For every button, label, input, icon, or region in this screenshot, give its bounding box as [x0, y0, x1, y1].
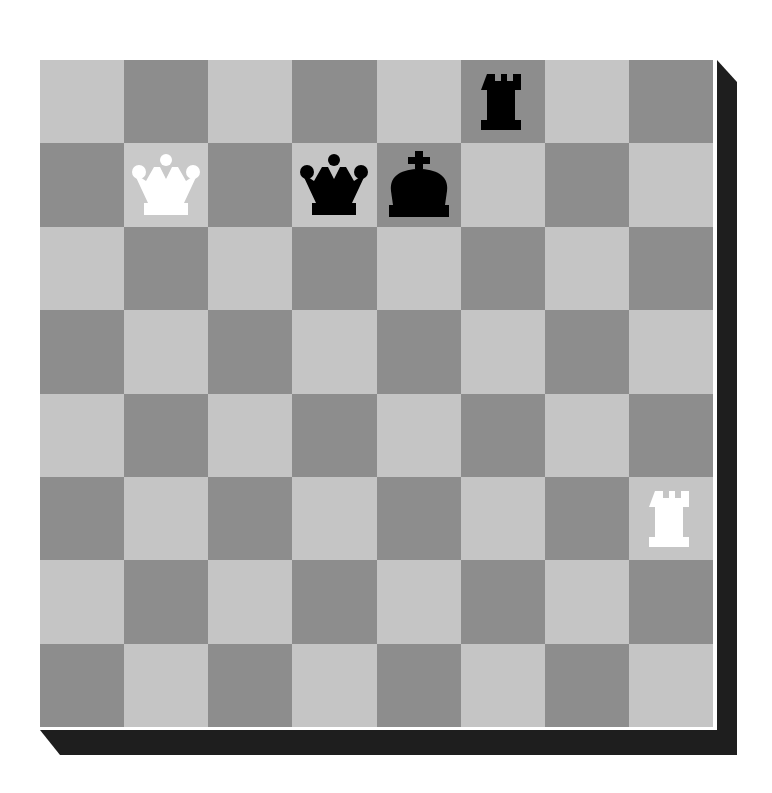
square-e8[interactable] [377, 60, 461, 143]
square-g4[interactable] [545, 394, 629, 477]
square-f5[interactable] [461, 310, 545, 393]
square-d8[interactable] [292, 60, 376, 143]
chess-board[interactable] [40, 60, 713, 727]
square-b8[interactable] [124, 60, 208, 143]
square-a1[interactable] [40, 644, 124, 727]
square-f3[interactable] [461, 477, 545, 560]
square-h8[interactable] [629, 60, 713, 143]
square-e3[interactable] [377, 477, 461, 560]
square-h6[interactable] [629, 227, 713, 310]
square-a7[interactable] [40, 143, 124, 226]
square-b1[interactable] [124, 644, 208, 727]
white-queen-icon[interactable] [130, 149, 202, 221]
square-h4[interactable] [629, 394, 713, 477]
square-d2[interactable] [292, 560, 376, 643]
square-a6[interactable] [40, 227, 124, 310]
black-king-icon[interactable] [383, 149, 455, 221]
square-f1[interactable] [461, 644, 545, 727]
square-h3[interactable] [629, 477, 713, 560]
white-rook-icon[interactable] [635, 483, 707, 555]
square-b2[interactable] [124, 560, 208, 643]
square-e4[interactable] [377, 394, 461, 477]
square-c1[interactable] [208, 644, 292, 727]
square-g2[interactable] [545, 560, 629, 643]
square-d1[interactable] [292, 644, 376, 727]
square-c8[interactable] [208, 60, 292, 143]
square-f2[interactable] [461, 560, 545, 643]
square-f8[interactable] [461, 60, 545, 143]
square-d7[interactable] [292, 143, 376, 226]
board-shadow-right [717, 60, 737, 755]
square-h7[interactable] [629, 143, 713, 226]
square-a5[interactable] [40, 310, 124, 393]
square-b4[interactable] [124, 394, 208, 477]
board-shadow-bottom [40, 730, 737, 755]
square-f6[interactable] [461, 227, 545, 310]
square-a2[interactable] [40, 560, 124, 643]
square-a3[interactable] [40, 477, 124, 560]
square-d6[interactable] [292, 227, 376, 310]
square-g1[interactable] [545, 644, 629, 727]
square-b5[interactable] [124, 310, 208, 393]
square-g5[interactable] [545, 310, 629, 393]
square-c4[interactable] [208, 394, 292, 477]
square-h1[interactable] [629, 644, 713, 727]
black-rook-icon[interactable] [467, 66, 539, 138]
square-e6[interactable] [377, 227, 461, 310]
square-c2[interactable] [208, 560, 292, 643]
square-c5[interactable] [208, 310, 292, 393]
square-h2[interactable] [629, 560, 713, 643]
square-e1[interactable] [377, 644, 461, 727]
square-e7[interactable] [377, 143, 461, 226]
square-e2[interactable] [377, 560, 461, 643]
square-b6[interactable] [124, 227, 208, 310]
square-f4[interactable] [461, 394, 545, 477]
square-a4[interactable] [40, 394, 124, 477]
square-f7[interactable] [461, 143, 545, 226]
square-c6[interactable] [208, 227, 292, 310]
square-h5[interactable] [629, 310, 713, 393]
square-g6[interactable] [545, 227, 629, 310]
square-c7[interactable] [208, 143, 292, 226]
square-a8[interactable] [40, 60, 124, 143]
square-g3[interactable] [545, 477, 629, 560]
square-d5[interactable] [292, 310, 376, 393]
square-b3[interactable] [124, 477, 208, 560]
square-d4[interactable] [292, 394, 376, 477]
square-c3[interactable] [208, 477, 292, 560]
square-b7[interactable] [124, 143, 208, 226]
square-e5[interactable] [377, 310, 461, 393]
square-d3[interactable] [292, 477, 376, 560]
square-g8[interactable] [545, 60, 629, 143]
black-queen-icon[interactable] [298, 149, 370, 221]
square-g7[interactable] [545, 143, 629, 226]
